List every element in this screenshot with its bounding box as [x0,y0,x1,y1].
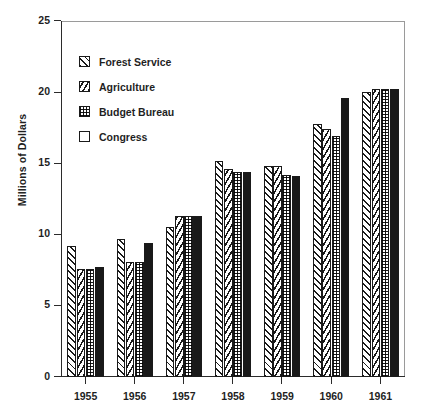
legend-swatch-icon [79,106,90,117]
legend-item: Budget Bureau [79,101,174,122]
y-tick-mark [54,376,61,377]
bar [126,262,135,377]
bar [67,246,76,377]
legend-item: Forest Service [79,51,174,72]
bar [166,227,175,377]
y-tick-label: 5 [44,298,50,310]
bar [341,98,350,377]
x-tick-mark [331,377,332,384]
bar [193,216,202,377]
bar [372,89,381,377]
y-tick-label: 0 [44,370,50,382]
bar [264,166,273,377]
bar [282,175,291,377]
bar [215,161,224,377]
bar [362,92,371,377]
legend-item: Agriculture [79,76,174,97]
x-tick-mark [281,377,282,384]
chart-legend: Forest ServiceAgricultureBudget BureauCo… [79,51,174,151]
bar [233,172,242,377]
x-tick-mark [134,377,135,384]
x-tick-mark [85,377,86,384]
bar [292,176,301,377]
legend-label: Congress [99,131,147,143]
bar [175,216,184,377]
bar [135,262,144,377]
y-tick-label: 10 [38,227,50,239]
bar [273,166,282,377]
grouped-bar-chart: Millions of Dollars 0510152025 195519561… [0,0,422,420]
bar [144,243,153,377]
bar [243,172,252,377]
bar [86,269,95,377]
y-tick-label: 20 [38,85,50,97]
y-tick-label: 25 [38,14,50,26]
legend-label: Budget Bureau [99,106,174,118]
y-tick-mark [54,163,61,164]
legend-swatch-icon [79,56,90,67]
y-tick-mark [54,305,61,306]
y-tick-mark [54,234,61,235]
legend-item: Congress [79,126,174,147]
bar [322,129,331,377]
bar [184,216,193,377]
bar [313,124,322,377]
bar [77,269,86,377]
y-tick-mark [54,92,61,93]
bar [381,89,390,377]
legend-label: Forest Service [99,56,171,68]
x-tick-mark [183,377,184,384]
bar [224,169,233,377]
x-tick-mark [232,377,233,384]
legend-label: Agriculture [99,81,155,93]
legend-swatch-icon [79,81,90,92]
y-tick-label: 15 [38,156,50,168]
bar [332,136,341,377]
x-axis-label: 1961 [350,390,410,402]
bar [117,239,126,377]
x-tick-mark [380,377,381,384]
bar [95,267,104,377]
y-tick-mark [54,20,61,21]
bar [390,89,399,377]
y-axis-title: Millions of Dollars [16,90,28,230]
legend-swatch-icon [79,131,90,142]
